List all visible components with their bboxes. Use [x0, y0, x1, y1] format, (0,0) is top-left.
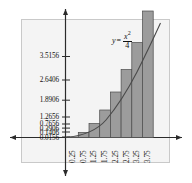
riemann-sum-figure: 3.5156 2.6406 1.8906 1.2656 0.7656 0.390…: [0, 0, 192, 183]
x-tick-label: 0.75: [80, 150, 88, 163]
y-tick-label: 2.6406: [23, 76, 59, 84]
bar: [132, 43, 143, 138]
bar: [110, 92, 121, 138]
y-axis: [63, 9, 68, 176]
bar-series: [68, 11, 154, 138]
x-tick-label: 1.25: [90, 150, 98, 163]
x-tick-label: 2.75: [123, 150, 131, 163]
equation-fraction: x24: [123, 33, 132, 50]
bar: [121, 70, 132, 138]
equation-exponent: 2: [128, 30, 131, 36]
y-tick-label: 3.5156: [23, 52, 59, 60]
x-tick-label: 1.75: [101, 150, 109, 163]
x-tick-label: 3.25: [133, 150, 141, 163]
x-tick-label: 0.25: [69, 150, 77, 163]
bar: [100, 110, 111, 138]
x-tick-label: 3.75: [144, 150, 152, 163]
x-tick-label: 2.25: [112, 150, 120, 163]
bar: [143, 11, 154, 138]
equation-denominator: 4: [123, 42, 132, 50]
equation-lhs: y: [112, 36, 116, 45]
curve-equation-label: y=x24: [112, 33, 132, 50]
y-tick-label: 1.8906: [23, 96, 59, 104]
y-tick-label: 0.0156: [23, 134, 59, 142]
equation-equals: =: [117, 36, 122, 45]
bar: [89, 124, 100, 138]
